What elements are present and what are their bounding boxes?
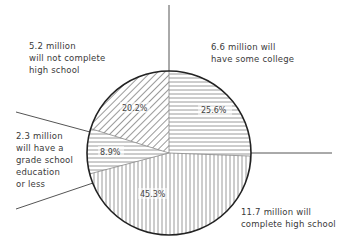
annotation-line: 2.3 million: [16, 130, 73, 142]
annotation-line: or less: [16, 178, 73, 190]
annotation-line: will not complete: [29, 52, 105, 64]
annotation-line: grade school: [16, 154, 73, 166]
annotation-line: complete high school: [241, 218, 336, 230]
pct-label-complete-high-school: 45.3%: [140, 190, 166, 199]
leader-line-upper-left: [16, 112, 90, 132]
pct-label-grade-school: 8.9%: [100, 148, 121, 157]
annotation-not-complete-high-school: 5.2 million will not complete high schoo…: [29, 40, 105, 76]
annotation-line: 11.7 million will: [241, 206, 336, 218]
annotation-line: 6.6 million will: [211, 41, 294, 53]
annotation-line: have some college: [211, 53, 294, 65]
annotation-grade-school: 2.3 million will have a grade school edu…: [16, 130, 73, 190]
pct-label-not-complete: 20.2%: [122, 104, 148, 113]
annotation-complete-high-school: 11.7 million will complete high school: [241, 206, 336, 230]
pct-label-some-college: 25.6%: [201, 106, 227, 115]
annotation-line: 5.2 million: [29, 40, 105, 52]
annotation-line: education: [16, 166, 73, 178]
annotation-line: will have a: [16, 142, 73, 154]
annotation-some-college: 6.6 million will have some college: [211, 41, 294, 65]
annotation-line: high school: [29, 64, 105, 76]
